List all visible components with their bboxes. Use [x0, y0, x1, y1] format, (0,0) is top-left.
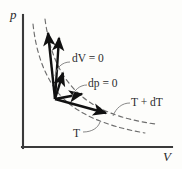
vector-shallow — [55, 99, 106, 113]
process-vectors — [48, 33, 106, 113]
pv-diagram-figure: p V dV = 0 dp = 0 T + dT T — [0, 0, 182, 169]
leader-T — [83, 122, 100, 132]
y-axis-label: p — [10, 8, 17, 21]
annotation-isotherm-T: T — [73, 128, 80, 140]
vector-dV-zero — [48, 33, 55, 99]
annotation-dV-zero: dV = 0 — [72, 53, 104, 65]
leader-T-plus-dT — [113, 103, 130, 116]
annotation-isotherm-T-plus-dT: T + dT — [131, 97, 163, 109]
x-axis-label: V — [163, 150, 171, 163]
annotation-dp-zero: dp = 0 — [88, 78, 118, 90]
